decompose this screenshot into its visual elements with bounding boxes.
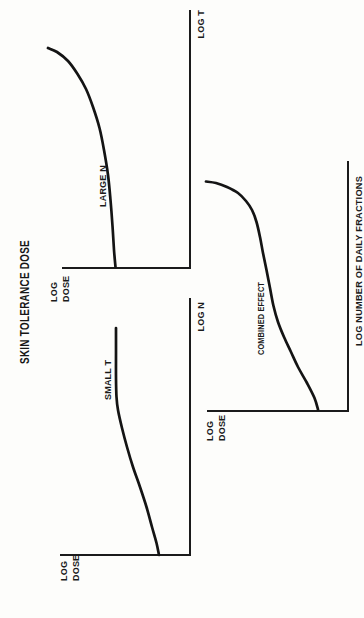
x-axis-label-large-n: LOG T: [196, 10, 206, 39]
x-axis-label-small-t: LOG N: [196, 302, 206, 332]
axes-small-t: [60, 298, 190, 555]
scanned-figure-page: SKIN TOLERANCE DOSE LOG DOSE LOG N SMALL…: [0, 0, 364, 618]
axes-combined-effect: [207, 161, 348, 411]
axes-large-n: [62, 10, 190, 268]
curve-large-n: [48, 48, 116, 267]
curve-label-combined: COMBINED EFFECT: [256, 282, 266, 355]
y-axis-label-combined-line1: LOG: [205, 421, 215, 441]
curve-label-small-t: SMALL T: [103, 359, 113, 400]
figure-rotated-group: SKIN TOLERANCE DOSE LOG DOSE LOG N SMALL…: [18, 10, 364, 581]
figure-title: SKIN TOLERANCE DOSE: [18, 240, 32, 364]
curve-small-t: [116, 328, 159, 555]
y-axis-label-small-t-line1: LOG: [59, 561, 69, 581]
y-axis-label-small-t-line2: DOSE: [71, 555, 81, 581]
y-axis-label-large-n-line1: LOG: [49, 282, 59, 302]
panel-large-n: LOG DOSE LOG T LARGE N: [48, 10, 206, 302]
figure-canvas: SKIN TOLERANCE DOSE LOG DOSE LOG N SMALL…: [0, 0, 364, 618]
x-axis-label-combined: LOG NUMBER OF DAILY FRACTIONS: [354, 176, 364, 346]
y-axis-label-combined-line2: DOSE: [217, 415, 227, 441]
panel-small-t: LOG DOSE LOG N SMALL T: [59, 298, 206, 581]
curve-label-large-n: LARGE N: [98, 165, 108, 207]
y-axis-label-large-n-line2: DOSE: [61, 276, 71, 302]
panel-combined-effect: LOG DOSE LOG NUMBER OF DAILY FRACTIONS C…: [205, 161, 364, 441]
